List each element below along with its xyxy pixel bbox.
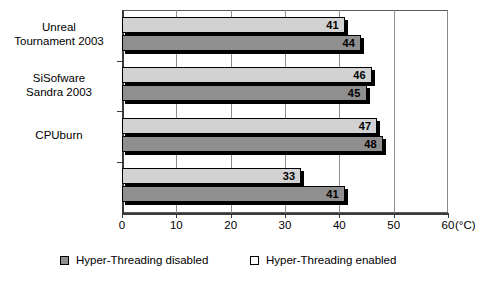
x-axis-label-10: 10 xyxy=(156,219,196,231)
bar-enabled-3: 33 xyxy=(122,168,301,184)
x-axis-unit-label: (°C) xyxy=(455,219,476,231)
x-axis-label-0: 0 xyxy=(102,219,142,231)
x-axis-label-20: 20 xyxy=(211,219,251,231)
gridline-50 xyxy=(394,10,395,213)
x-axis-tick-20 xyxy=(231,213,232,218)
y-axis-tick-1 xyxy=(117,61,122,62)
y-axis-tick-3 xyxy=(117,162,122,163)
legend-swatch-enabled xyxy=(250,256,259,265)
bar-value-label: 47 xyxy=(359,120,372,132)
legend-label: Hyper-Threading disabled xyxy=(76,254,208,266)
x-axis-label-30: 30 xyxy=(265,219,305,231)
bar-value-label: 41 xyxy=(326,19,339,31)
bar-disabled-2: 48 xyxy=(122,136,383,152)
legend-swatch-disabled xyxy=(60,256,69,265)
legend-entry-enabled: Hyper-Threading enabled xyxy=(250,254,396,266)
bar-value-label: 41 xyxy=(326,188,339,200)
x-axis-tick-40 xyxy=(339,213,340,218)
x-axis-label-50: 50 xyxy=(374,219,414,231)
x-axis-tick-50 xyxy=(394,213,395,218)
x-axis-tick-10 xyxy=(176,213,177,218)
bar-disabled-0: 44 xyxy=(122,35,361,51)
x-axis-tick-60 xyxy=(448,213,449,218)
x-axis-tick-30 xyxy=(285,213,286,218)
bar-enabled-1: 46 xyxy=(122,67,372,83)
category-label-0: Unreal Tournament 2003 xyxy=(4,20,114,48)
category-label-2: CPUburn xyxy=(4,128,114,142)
bar-enabled-0: 41 xyxy=(122,17,345,33)
bar-value-label: 48 xyxy=(364,138,377,150)
x-axis-label-40: 40 xyxy=(319,219,359,231)
bar-value-label: 44 xyxy=(342,37,355,49)
bar-value-label: 46 xyxy=(353,69,366,81)
y-axis-tick-2 xyxy=(117,111,122,112)
bar-value-label: 45 xyxy=(348,87,361,99)
x-axis-tick-0 xyxy=(122,213,123,218)
bar-disabled-1: 45 xyxy=(122,85,367,101)
chart-legend: Hyper-Threading disabledHyper-Threading … xyxy=(0,252,500,274)
temperature-bar-chart: Unreal Tournament 2003SiSofware Sandra 2… xyxy=(0,0,500,285)
legend-entry-disabled: Hyper-Threading disabled xyxy=(60,254,208,266)
bar-enabled-2: 47 xyxy=(122,118,377,134)
legend-label: Hyper-Threading enabled xyxy=(266,254,396,266)
category-label-1: SiSofware Sandra 2003 xyxy=(4,71,114,99)
bar-disabled-3: 41 xyxy=(122,186,345,202)
bar-value-label: 33 xyxy=(283,170,296,182)
